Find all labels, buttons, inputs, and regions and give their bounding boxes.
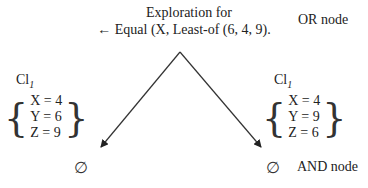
left-brace: { <box>262 92 286 142</box>
binding-x: X = 4 <box>30 93 62 109</box>
right-brace: } <box>322 92 346 142</box>
binding-z: Z = 6 <box>288 125 320 141</box>
binding-z: Z = 9 <box>30 125 62 141</box>
right-clause-set: Cl1 { X = 4 Y = 9 Z = 6 } <box>262 72 346 141</box>
clause-subscript: 1 <box>29 79 34 90</box>
left-edge-arrow <box>101 52 180 147</box>
binding-y: Y = 6 <box>30 109 62 125</box>
binding-x: X = 4 <box>288 93 320 109</box>
left-empty-set-icon: ∅ <box>74 158 88 177</box>
clause-name: Cl <box>274 72 287 87</box>
right-brace: } <box>64 92 88 142</box>
right-clause-label: Cl1 <box>262 72 346 93</box>
left-clause-label: Cl1 <box>4 72 88 93</box>
left-brace: { <box>4 92 28 142</box>
or-node-label: OR node <box>298 12 348 28</box>
clause-subscript: 1 <box>287 79 292 90</box>
left-clause-set: Cl1 { X = 4 Y = 6 Z = 9 } <box>4 72 88 141</box>
right-empty-set-icon: ∅ <box>266 158 280 177</box>
binding-y: Y = 9 <box>288 109 320 125</box>
clause-name: Cl <box>16 72 29 87</box>
and-node-label: AND node <box>297 159 358 175</box>
right-edge-arrow <box>180 52 261 147</box>
